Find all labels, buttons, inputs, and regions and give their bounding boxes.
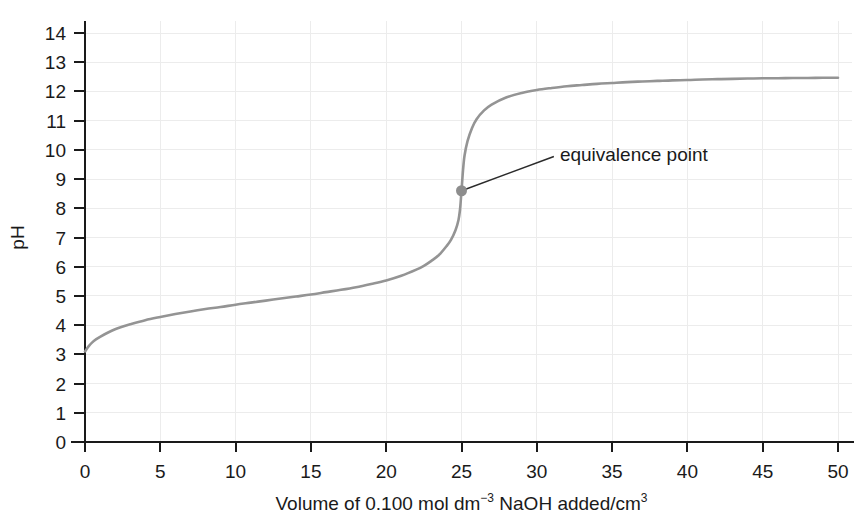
x-tick-label: 45	[752, 461, 773, 482]
y-tick-label: 11	[46, 111, 66, 132]
y-tick-label: 5	[55, 286, 66, 307]
y-tick-label: 4	[55, 315, 66, 336]
horizontal-gridlines	[85, 33, 852, 413]
x-tick-label: 30	[526, 461, 547, 482]
y-tick-label: 12	[45, 81, 66, 102]
y-axis-tick-marks	[74, 33, 85, 442]
x-tick-label: 35	[602, 461, 623, 482]
equivalence-leader-line	[462, 156, 554, 190]
chart-canvas: 01234567891011121314 0510152025303540455…	[0, 0, 867, 521]
y-tick-label: 10	[45, 140, 66, 161]
vertical-gridlines	[160, 21, 838, 442]
y-tick-label: 3	[55, 344, 66, 365]
y-tick-label: 2	[55, 374, 66, 395]
equivalence-point-marker	[456, 185, 467, 196]
x-axis-tick-marks	[85, 442, 838, 452]
y-tick-label: 14	[45, 23, 67, 44]
y-axis-tick-labels: 01234567891011121314	[45, 23, 67, 453]
y-tick-label: 13	[45, 52, 66, 73]
y-tick-label: 0	[55, 432, 66, 453]
x-tick-label: 15	[300, 461, 321, 482]
y-tick-label: 8	[55, 198, 66, 219]
y-tick-label: 6	[55, 257, 66, 278]
x-tick-label: 10	[225, 461, 246, 482]
x-tick-label: 25	[451, 461, 472, 482]
x-tick-label: 5	[155, 461, 166, 482]
y-tick-label: 7	[55, 228, 66, 249]
titration-curve-figure: 01234567891011121314 0510152025303540455…	[0, 0, 867, 521]
x-tick-label: 20	[376, 461, 397, 482]
equivalence-point-label: equivalence point	[560, 144, 709, 165]
y-axis-title: pH	[7, 225, 28, 249]
y-tick-label: 9	[55, 169, 66, 190]
x-axis-tick-labels: 05101520253035404550	[80, 461, 849, 482]
x-tick-label: 50	[827, 461, 848, 482]
x-tick-label: 0	[80, 461, 91, 482]
y-tick-label: 1	[55, 403, 66, 424]
x-tick-label: 40	[677, 461, 698, 482]
x-axis-title: Volume of 0.100 mol dm−3 NaOH added/cm3	[275, 491, 647, 514]
